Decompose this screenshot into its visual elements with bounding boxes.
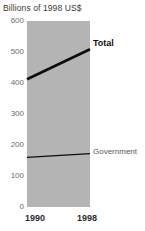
- x-axis: 1990 1998: [0, 213, 145, 227]
- series-line-government: [27, 154, 90, 158]
- y-tick-label-400: 400: [0, 79, 24, 87]
- y-axis: 600 500 400 300 200 100 0: [0, 0, 24, 231]
- y-tick-label-300: 300: [0, 110, 24, 118]
- series-lines: [27, 21, 90, 207]
- y-tick-label-500: 500: [0, 48, 24, 56]
- x-tick-label-1998: 1998: [77, 213, 97, 223]
- series-annotation-total: Total: [93, 38, 114, 48]
- y-tick-label-200: 200: [0, 141, 24, 149]
- series-annotation-government: Government: [93, 147, 137, 157]
- y-tick-label-0: 0: [0, 203, 24, 211]
- plot-area: [27, 21, 90, 207]
- y-tick-label-100: 100: [0, 172, 24, 180]
- x-tick-label-1990: 1990: [25, 213, 45, 223]
- y-tick-label-600: 600: [0, 17, 24, 25]
- series-line-total: [27, 49, 90, 79]
- chart-container: Billions of 1998 US$ 600 500 400 300 200…: [0, 0, 145, 231]
